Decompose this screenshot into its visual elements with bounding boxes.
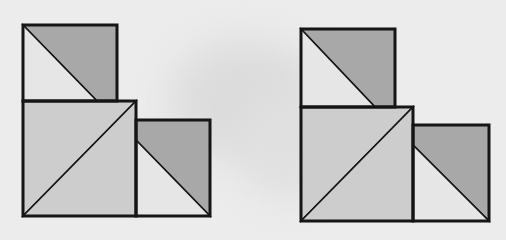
right-figure <box>301 29 489 221</box>
left-figure <box>23 25 210 216</box>
diagram-canvas <box>0 0 506 239</box>
figures-svg <box>0 0 506 239</box>
